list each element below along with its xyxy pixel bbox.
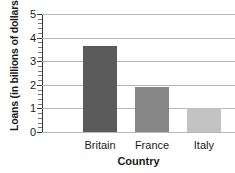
y-axis-title: Loans (in billions of dollars) [7,0,21,134]
y-tick-label-1: 1 [20,103,36,114]
y-tick-label-4: 4 [20,33,36,44]
gridline-0 [42,132,235,133]
bar-britain [83,46,117,132]
category-label-italy: Italy [164,139,235,151]
y-tick-label-2: 2 [20,80,36,91]
y-tick-label-5: 5 [20,9,36,20]
bar-series [42,14,235,132]
y-tick-label-3: 3 [20,56,36,67]
bar-italy [187,108,221,132]
x-axis-title: Country [42,155,235,167]
plot-area [42,14,235,132]
bar-chart: Loans (in billions of dollars) 012345 Br… [0,0,235,173]
y-tick-label-0: 0 [20,127,36,138]
bar-france [135,87,169,132]
